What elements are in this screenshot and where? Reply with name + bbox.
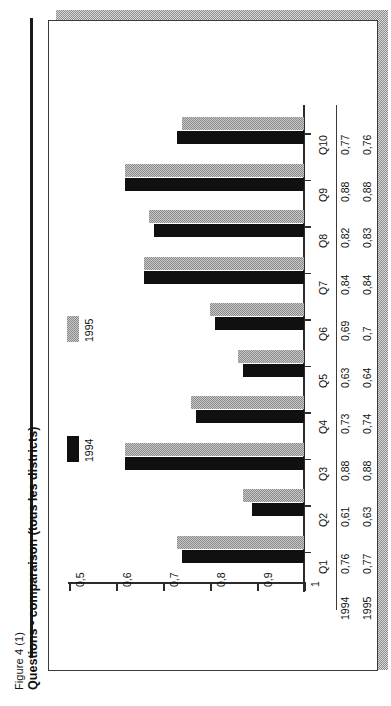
legend-label-1995: 1995	[83, 319, 95, 342]
bar-1995-Q8	[149, 210, 304, 223]
bar-1995-Q4	[191, 396, 304, 409]
table-category-Q3: Q3	[317, 466, 329, 480]
category-tick	[303, 180, 311, 182]
table-cell-1994-Q7: 0,84	[339, 274, 351, 294]
legend-swatch-1994	[67, 436, 79, 462]
bar-1995-Q3	[125, 443, 304, 456]
table-category-Q7: Q7	[317, 280, 329, 294]
axis-tick	[163, 582, 165, 591]
category-tick	[303, 366, 311, 368]
table-category-Q6: Q6	[317, 327, 329, 341]
category-tick	[303, 459, 311, 461]
bar-1995-Q7	[144, 257, 304, 270]
table-cell-1994-Q4: 0,73	[339, 414, 351, 434]
table-cell-1995-Q9: 0,88	[361, 181, 373, 201]
table-category-Q1: Q1	[317, 559, 329, 573]
table-category-Q5: Q5	[317, 373, 329, 387]
category-tick	[303, 273, 311, 275]
axis-tick	[116, 582, 118, 591]
bar-1994-Q7	[144, 271, 304, 284]
table-category-Q9: Q9	[317, 187, 329, 201]
bar-1994-Q6	[215, 317, 304, 330]
table-cell-1995-Q4: 0,74	[361, 414, 373, 434]
chart-panel: 10,90,80,70,60,5 19941995 Q10,760,77Q20,…	[48, 20, 378, 671]
category-tick	[303, 226, 311, 228]
table-cell-1994-Q1: 0,76	[339, 553, 351, 573]
legend-label-1994: 1994	[83, 439, 95, 462]
axis-tick-label: 1	[309, 581, 321, 587]
table-cell-1995-Q6: 0,7	[361, 326, 373, 341]
table-cell-1994-Q10: 0,77	[339, 135, 351, 155]
table-category-Q8: Q8	[317, 234, 329, 248]
table-cell-1994-Q3: 0,88	[339, 460, 351, 480]
legend-swatch-1995	[67, 316, 79, 342]
table-cell-1994-Q5: 0,63	[339, 367, 351, 387]
table-category-Q10: Q10	[317, 135, 329, 155]
table-cell-1994-Q6: 0,69	[339, 321, 351, 341]
table-cell-1994-Q2: 0,61	[339, 507, 351, 527]
category-tick	[303, 133, 311, 135]
bar-1995-Q9	[125, 164, 304, 177]
table-category-Q4: Q4	[317, 420, 329, 434]
table-row-header-1995: 1995	[361, 597, 373, 620]
figure-title: Questions - comparaison (tous les distri…	[27, 427, 40, 690]
table-cell-1995-Q3: 0,88	[361, 460, 373, 480]
axis-tick-label: 0,7	[168, 572, 180, 587]
category-tick	[303, 412, 311, 414]
table-cell-1995-Q2: 0,63	[361, 507, 373, 527]
table-category-Q2: Q2	[317, 513, 329, 527]
axis-tick-label: 0,9	[262, 572, 274, 587]
bar-1994-Q1	[182, 550, 304, 563]
axis-tick	[257, 582, 259, 591]
bar-1994-Q5	[243, 364, 304, 377]
table-cell-1994-Q8: 0,82	[339, 228, 351, 248]
table-row-header-1994: 1994	[339, 597, 351, 620]
category-tick	[303, 319, 311, 321]
category-tick	[303, 505, 311, 507]
table-cell-1995-Q10: 0,76	[361, 135, 373, 155]
bar-1994-Q9	[125, 178, 304, 191]
axis-tick	[69, 582, 71, 591]
bar-1995-Q1	[177, 536, 304, 549]
bar-1995-Q10	[182, 117, 304, 130]
axis-tick-label: 0,8	[215, 572, 227, 587]
axis-tick-label: 0,6	[121, 572, 133, 587]
bar-1995-Q5	[238, 350, 304, 363]
table-row-separator	[336, 105, 337, 610]
category-tick	[303, 552, 311, 554]
table-cell-1995-Q1: 0,77	[361, 553, 373, 573]
table-cell-1995-Q7: 0,84	[361, 274, 373, 294]
bar-1994-Q10	[177, 131, 304, 144]
bar-1994-Q4	[196, 410, 304, 423]
figure-number: Figure 4 (1)	[14, 632, 25, 690]
bar-1994-Q3	[125, 457, 304, 470]
table-cell-1995-Q5: 0,64	[361, 367, 373, 387]
axis-tick-label: 0,5	[74, 572, 86, 587]
bar-1995-Q2	[243, 489, 304, 502]
bar-1995-Q6	[210, 303, 304, 316]
bar-1994-Q2	[252, 503, 304, 516]
table-cell-1994-Q9: 0,88	[339, 181, 351, 201]
bar-1994-Q8	[154, 224, 304, 237]
axis-tick	[210, 582, 212, 591]
plot-area: 10,90,80,70,60,5 19941995 Q10,760,77Q20,…	[49, 21, 377, 670]
figure-caption-block: Figure 4 (1) Questions - comparaison (to…	[0, 0, 40, 706]
table-cell-1995-Q8: 0,83	[361, 228, 373, 248]
